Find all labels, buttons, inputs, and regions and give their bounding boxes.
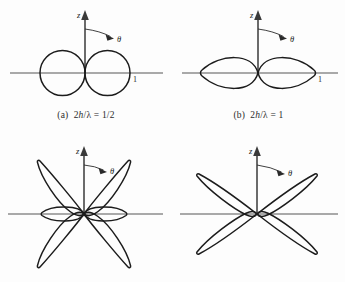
unit-tick-label: 1 bbox=[318, 75, 322, 84]
panel-b: z θ 1 (b) 2h/λ = 1 bbox=[172, 0, 345, 141]
radiation-pattern-figure: z θ 1 (a) 2h/λ = 1/2 z θ 1 bbox=[0, 0, 345, 282]
theta-arrowhead bbox=[106, 34, 114, 40]
lobe-lower-right bbox=[257, 211, 317, 254]
caption-value: 1/2 bbox=[102, 110, 115, 120]
theta-arrowhead bbox=[277, 170, 285, 176]
caption-equals: = bbox=[94, 110, 100, 120]
z-axis-label: z bbox=[75, 146, 80, 156]
theta-arrowhead bbox=[279, 34, 287, 40]
z-axis-label: z bbox=[248, 146, 253, 156]
lobe-upper-right bbox=[257, 174, 317, 217]
panel-a: z θ 1 (a) 2h/λ = 1/2 bbox=[0, 0, 172, 141]
panel-d: z θ (d) 2h/λ = 2 bbox=[172, 141, 345, 282]
caption-lambda: /λ bbox=[260, 110, 268, 120]
unit-tick-label: 1 bbox=[133, 75, 137, 84]
caption-equals: = bbox=[270, 110, 276, 120]
theta-label: θ bbox=[117, 34, 121, 44]
z-axis-label: z bbox=[249, 10, 254, 20]
theta-arrowhead bbox=[99, 168, 107, 174]
z-axis-arrowhead bbox=[254, 10, 262, 20]
panel-d-plot: z θ bbox=[172, 141, 345, 282]
z-axis-arrowhead bbox=[81, 10, 89, 20]
caption-lambda: /λ bbox=[84, 110, 92, 120]
lobe-upper-left bbox=[197, 174, 257, 217]
theta-label: θ bbox=[290, 34, 294, 44]
caption-value: 1 bbox=[279, 110, 284, 120]
z-axis-arrowhead bbox=[80, 146, 88, 156]
caption-prefix: (b) bbox=[233, 110, 245, 120]
panel-b-caption: (b) 2h/λ = 1 bbox=[172, 110, 345, 120]
z-axis-label: z bbox=[76, 10, 81, 20]
theta-label: θ bbox=[110, 166, 114, 176]
lobe-lower-left bbox=[197, 211, 257, 254]
panel-c: z θ (c) 2h/λ = 3/2 bbox=[0, 141, 172, 282]
panel-c-plot: z θ bbox=[0, 141, 172, 282]
panel-a-caption: (a) 2h/λ = 1/2 bbox=[0, 110, 172, 120]
caption-prefix: (a) bbox=[57, 110, 68, 120]
theta-label: θ bbox=[288, 168, 292, 178]
z-axis-arrowhead bbox=[253, 146, 261, 156]
